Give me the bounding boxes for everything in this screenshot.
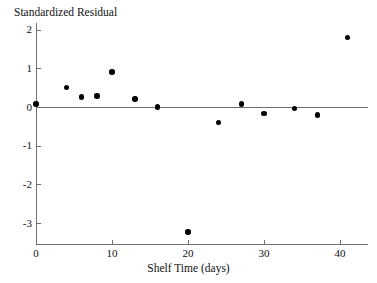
zero-reference-line xyxy=(36,107,368,108)
data-point xyxy=(315,112,320,117)
x-tick-label: 10 xyxy=(97,248,127,259)
y-axis-title: Standardized Residual xyxy=(14,6,117,19)
data-point xyxy=(64,85,69,90)
y-tick xyxy=(37,223,41,224)
y-tick-label: -1 xyxy=(6,140,32,151)
data-point xyxy=(239,101,244,106)
data-point xyxy=(185,229,190,234)
x-tick-label: 20 xyxy=(173,248,203,259)
y-tick-label: 0 xyxy=(6,102,32,113)
x-tick-label: 0 xyxy=(21,248,51,259)
y-tick-label: -3 xyxy=(6,218,32,229)
x-tick xyxy=(264,240,265,245)
y-tick xyxy=(37,68,41,69)
y-tick-label: 2 xyxy=(6,24,32,35)
data-point xyxy=(109,69,114,74)
scatter-plot: Standardized Residual 210-1-2-3 01020304… xyxy=(0,0,377,283)
data-point xyxy=(261,111,266,116)
y-tick xyxy=(37,107,41,108)
x-tick xyxy=(112,240,113,245)
x-tick xyxy=(36,240,37,245)
y-axis-line xyxy=(36,23,37,245)
data-point xyxy=(132,96,137,101)
data-point xyxy=(33,101,38,106)
y-tick-label: 1 xyxy=(6,63,32,74)
y-tick xyxy=(37,146,41,147)
data-point xyxy=(94,93,99,98)
data-point xyxy=(292,106,297,111)
x-tick xyxy=(188,240,189,245)
data-point xyxy=(155,104,160,109)
y-tick xyxy=(37,30,41,31)
data-point xyxy=(216,120,221,125)
x-tick-label: 40 xyxy=(325,248,355,259)
x-axis-line xyxy=(36,244,368,245)
y-tick-label: -2 xyxy=(6,179,32,190)
x-axis-title: Shelf Time (days) xyxy=(0,262,377,275)
y-tick xyxy=(37,184,41,185)
data-point xyxy=(345,35,350,40)
x-tick-label: 30 xyxy=(249,248,279,259)
data-point xyxy=(79,94,84,99)
x-tick xyxy=(340,240,341,245)
